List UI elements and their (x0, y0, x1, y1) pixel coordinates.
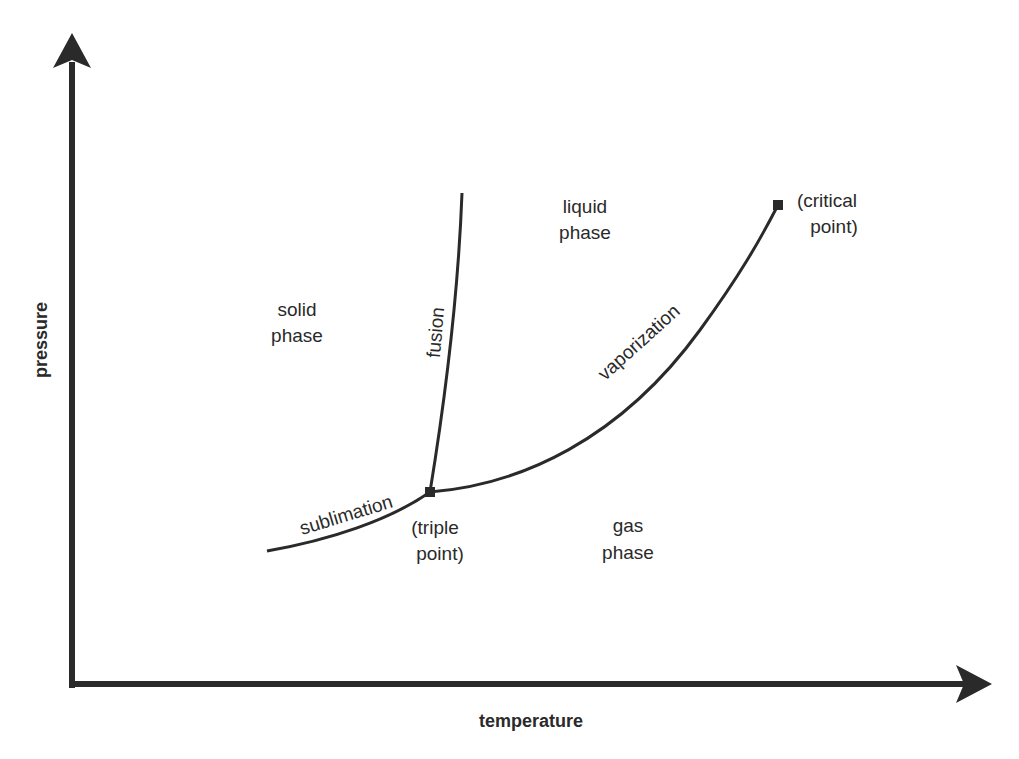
solid-phase-label-line1: solid (277, 299, 316, 320)
gas-phase-label-line1: gas (613, 515, 644, 536)
phase-diagram: temperature pressure solid phase liquid … (0, 0, 1019, 759)
solid-phase-label-line2: phase (271, 325, 323, 346)
critical-point-label-line1: (critical (797, 190, 857, 211)
critical-point-label-line2: point) (810, 216, 858, 237)
vaporization-curve (430, 205, 778, 492)
triple-point-label-line2: point) (416, 543, 464, 564)
critical-point-marker (773, 200, 783, 210)
gas-phase-label-line2: phase (602, 542, 654, 563)
x-axis-label: temperature (479, 711, 583, 731)
liquid-phase-label-line1: liquid (563, 196, 607, 217)
triple-point-marker (425, 487, 435, 497)
fusion-label: fusion (423, 306, 448, 358)
triple-point-label-line1: (triple (411, 517, 459, 538)
y-axis-label: pressure (31, 302, 51, 378)
vaporization-label: vaporization (594, 300, 684, 384)
liquid-phase-label-line2: phase (559, 222, 611, 243)
